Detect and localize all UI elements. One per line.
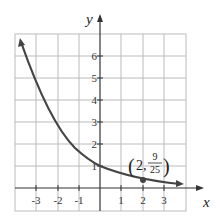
y-axis-label: y — [84, 11, 93, 27]
x-tick-label: -3 — [31, 194, 41, 206]
y-tick-label: 5 — [92, 72, 98, 84]
x-tick-label: 2 — [140, 194, 146, 206]
y-tick-label: 3 — [92, 116, 98, 128]
x-axis-label: x — [202, 194, 210, 210]
x-tick-label: 1 — [118, 194, 124, 206]
svg-text:2,: 2, — [136, 158, 147, 173]
exponential-chart: -3 -2 -1 1 2 3 1 2 3 4 5 6 x y ( 2, 9 25… — [0, 0, 220, 223]
point-annotation: ( 2, 9 25 ) — [128, 151, 170, 178]
y-axis-arrow-icon — [97, 14, 103, 22]
x-tick-label: -1 — [74, 194, 83, 206]
y-tick-label: 6 — [92, 50, 98, 62]
svg-text:(: ( — [128, 155, 135, 178]
point-marker — [140, 177, 146, 183]
svg-text:): ) — [163, 155, 170, 178]
x-tick-label: 3 — [161, 194, 167, 206]
x-axis-arrow-icon — [196, 185, 204, 191]
curve-arrow-left-icon — [18, 38, 25, 47]
svg-text:25: 25 — [150, 164, 160, 175]
axes — [15, 16, 202, 211]
y-tick-label: 4 — [92, 94, 98, 106]
svg-text:9: 9 — [153, 151, 158, 162]
curve-arrow-right-icon — [176, 180, 184, 187]
x-tick-label: -2 — [53, 194, 62, 206]
y-tick-label: 2 — [92, 138, 98, 150]
